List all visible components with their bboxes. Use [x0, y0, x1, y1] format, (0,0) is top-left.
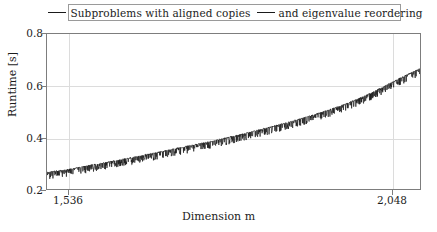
- legend-line-sample-icon: [257, 12, 275, 13]
- x-tick-label-1536: 1,536: [53, 194, 83, 206]
- y-tick-mark-0.2: [41, 190, 46, 191]
- y-tick-mark-0.8: [41, 33, 46, 34]
- y-tick-mark-0.6: [41, 86, 46, 87]
- x-tick-label-2048: 2,048: [377, 194, 407, 206]
- series-plot: [47, 34, 420, 189]
- legend-label-0: Subproblems with aligned copies: [70, 7, 250, 19]
- y-tick-label-0.2: 0.2: [3, 184, 43, 196]
- chart-legend: Subproblems with aligned copies and eige…: [68, 4, 401, 21]
- y-tick-mark-0.4: [41, 138, 46, 139]
- x-axis-label: Dimension m: [0, 210, 437, 223]
- legend-entry-1: and eigenvalue reordering: [251, 7, 423, 19]
- legend-label-1: and eigenvalue reordering: [279, 7, 423, 19]
- legend-line-sample-icon: [48, 12, 66, 13]
- chart-figure: Subproblems with aligned copies and eige…: [0, 0, 437, 232]
- plot-area: [46, 33, 421, 190]
- legend-entry-0: Subproblems with aligned copies: [46, 7, 250, 19]
- y-axis-label: Runtime [s]: [6, 35, 19, 135]
